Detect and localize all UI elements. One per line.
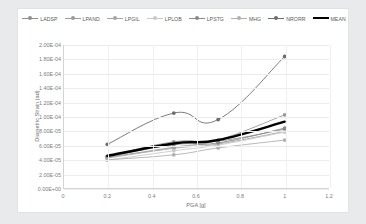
legend-item-label: LPGIL [125, 16, 140, 22]
vertical-gridline [241, 45, 242, 188]
legend-item-label: LPSTG [207, 16, 224, 22]
legend-swatch-icon [22, 15, 38, 22]
y-axis-tick: 1.20E-04 [39, 100, 61, 106]
legend-item-label: LADSP [40, 16, 57, 22]
vertical-gridline [153, 45, 154, 188]
chart-legend: LADSPLPANDLPGILLPLOBLPSTGMHGNRORRMEAN [18, 15, 350, 22]
legend-item-lpgil[interactable]: LPGIL [107, 15, 140, 22]
legend-item-ladsp[interactable]: LADSP [22, 15, 57, 22]
y-axis-tick: 0.00E+00 [38, 186, 61, 192]
y-axis-tick: 1.60E-04 [39, 71, 61, 77]
y-axis-tick: 2.00E-05 [39, 172, 61, 178]
legend-item-label: MHG [249, 16, 261, 22]
x-axis-title: PGA [g] [63, 202, 329, 208]
y-axis-title: Diametric Strain (ad) [34, 56, 40, 176]
x-axis-tick: 0.6 [192, 193, 200, 199]
legend-swatch-icon [147, 15, 163, 22]
y-axis-tick: 4.00E-05 [39, 157, 61, 163]
legend-item-lpand[interactable]: LPAND [65, 15, 100, 22]
horizontal-gridline [64, 189, 329, 190]
legend-swatch-icon [65, 15, 81, 22]
legend-item-label: LPLOB [165, 16, 182, 22]
x-axis-tick: 0.2 [104, 193, 112, 199]
legend-item-lpstg[interactable]: LPSTG [189, 15, 224, 22]
x-axis-tick: 0.8 [237, 193, 245, 199]
plot-area [63, 45, 329, 189]
y-axis-tick: 6.00E-05 [39, 143, 61, 149]
legend-swatch-icon [268, 15, 284, 22]
legend-swatch-icon [231, 15, 247, 22]
chart-card: LADSPLPANDLPGILLPLOBLPSTGMHGNRORRMEAN 0.… [17, 8, 349, 213]
legend-item-mean[interactable]: MEAN [313, 15, 346, 22]
x-axis-tick: 1.2 [325, 193, 333, 199]
legend-item-mhg[interactable]: MHG [231, 15, 261, 22]
x-axis-tick: 0.4 [148, 193, 156, 199]
legend-item-lplob[interactable]: LPLOB [147, 15, 182, 22]
x-axis-tick: 1 [283, 193, 286, 199]
y-axis-tick: 2.00E-04 [39, 42, 61, 48]
legend-swatch-icon [313, 15, 329, 22]
y-axis-tick: 1.00E-04 [39, 114, 61, 120]
y-axis-tick: 8.00E-05 [39, 128, 61, 134]
legend-swatch-icon [107, 15, 123, 22]
legend-item-label: NRORR [286, 16, 305, 22]
vertical-gridline [330, 45, 331, 188]
y-axis-tick: 1.80E-04 [39, 56, 61, 62]
vertical-gridline [286, 45, 287, 188]
x-axis-tick-labels: 00.20.40.60.811.2 [63, 193, 329, 202]
y-axis-tick: 1.40E-04 [39, 85, 61, 91]
legend-item-label: LPAND [83, 16, 100, 22]
legend-item-nrorr[interactable]: NRORR [268, 15, 305, 22]
legend-swatch-icon [189, 15, 205, 22]
vertical-gridline [197, 45, 198, 188]
x-axis-tick: 0 [62, 193, 65, 199]
legend-item-label: MEAN [331, 16, 346, 22]
vertical-gridline [108, 45, 109, 188]
plot-wrap [63, 45, 329, 189]
